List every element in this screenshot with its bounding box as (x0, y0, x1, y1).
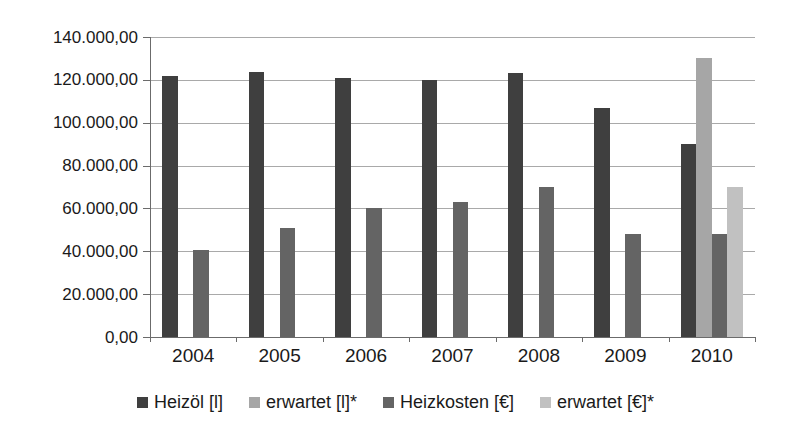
bar-erwartet-eur-2010 (727, 187, 743, 337)
legend-label: erwartet [€]* (557, 392, 654, 412)
y-axis-tick-label: 140.000,00 (28, 29, 138, 46)
y-axis-tick (143, 294, 150, 295)
legend-swatch-icon (383, 397, 394, 408)
x-axis-category-label: 2004 (150, 346, 236, 366)
legend-swatch-icon (137, 397, 148, 408)
bar-heizkosten-eur-2005 (280, 228, 296, 337)
y-axis-tick (143, 37, 150, 38)
x-axis-category-label: 2006 (323, 346, 409, 366)
x-axis-category-label: 2005 (236, 346, 322, 366)
bar-heizkosten-eur-2004 (193, 250, 209, 337)
bar-heizkosten-eur-2007 (453, 202, 469, 337)
y-axis-tick (143, 80, 150, 81)
legend-item-erwartet-l: erwartet [l]* (249, 392, 357, 412)
legend-item-erwartet-eur: erwartet [€]* (540, 392, 654, 412)
y-axis-tick (143, 208, 150, 209)
x-axis-tick (496, 337, 497, 342)
bar-heizol-l-2004 (162, 76, 178, 337)
bar-heizkosten-eur-2009 (625, 234, 641, 337)
bar-heizol-l-2007 (422, 80, 438, 337)
gridline (150, 166, 755, 167)
y-axis-tick-label: 40.000,00 (28, 243, 138, 260)
x-axis-tick (582, 337, 583, 342)
legend-label: erwartet [l]* (266, 392, 357, 412)
y-axis-tick (143, 337, 150, 338)
y-axis-tick-label: 80.000,00 (28, 157, 138, 174)
y-axis (150, 37, 151, 341)
bar-heizol-l-2010 (681, 144, 697, 337)
x-axis-tick (150, 337, 151, 342)
gridline (150, 80, 755, 81)
bar-heizol-l-2005 (249, 72, 265, 337)
x-axis-tick (236, 337, 237, 342)
x-axis-category-label: 2010 (669, 346, 755, 366)
bar-heizkosten-eur-2010 (712, 234, 728, 337)
gridline (150, 37, 755, 38)
y-axis-tick-label: 120.000,00 (28, 71, 138, 88)
gridline (150, 123, 755, 124)
legend-label: Heizöl [l] (154, 392, 223, 412)
legend-label: Heizkosten [€] (400, 392, 514, 412)
bar-erwartet-l-2010 (696, 58, 712, 337)
y-axis-tick (143, 123, 150, 124)
x-axis-tick (669, 337, 670, 342)
x-axis-tick (409, 337, 410, 342)
bar-chart-figure: 0,0020.000,0040.000,0060.000,0080.000,00… (0, 0, 791, 435)
y-axis-tick (143, 251, 150, 252)
chart-legend: Heizöl [l]erwartet [l]*Heizkosten [€]erw… (0, 390, 791, 414)
bar-heizol-l-2006 (335, 78, 351, 337)
x-axis-category-label: 2008 (496, 346, 582, 366)
x-axis-category-label: 2009 (582, 346, 668, 366)
x-axis (150, 337, 755, 338)
y-axis-tick-label: 60.000,00 (28, 200, 138, 217)
y-axis-tick (143, 166, 150, 167)
legend-item-heizkosten-eur: Heizkosten [€] (383, 392, 514, 412)
bar-heizkosten-eur-2006 (366, 208, 382, 337)
y-axis-tick-label: 20.000,00 (28, 286, 138, 303)
legend-item-heizol-l: Heizöl [l] (137, 392, 223, 412)
x-axis-tick (323, 337, 324, 342)
x-axis-category-label: 2007 (409, 346, 495, 366)
bar-heizkosten-eur-2008 (539, 187, 555, 337)
legend-swatch-icon (249, 397, 260, 408)
legend-swatch-icon (540, 397, 551, 408)
bar-heizol-l-2009 (594, 108, 610, 337)
y-axis-tick-label: 100.000,00 (28, 114, 138, 131)
bar-heizol-l-2008 (508, 73, 524, 337)
x-axis-tick (755, 337, 756, 342)
y-axis-tick-label: 0,00 (28, 329, 138, 346)
